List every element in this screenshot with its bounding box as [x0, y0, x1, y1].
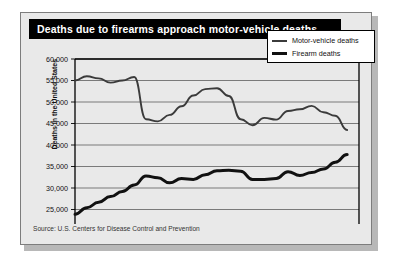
y-tick-label: 25,000: [46, 205, 68, 214]
y-tick-label: 55,000: [46, 76, 68, 85]
y-tick-label: 30,000: [46, 184, 68, 193]
legend-item-motor-vehicle: Motor-vehicle deaths: [272, 34, 370, 47]
y-tick-label: 60,000: [46, 55, 68, 64]
y-tick-label: 50,000: [46, 98, 68, 107]
source-note: Source: U.S. Centers for Disease Control…: [33, 225, 200, 232]
y-tick-labels-group: 60,00055,00050,00045,00040,00035,00030,0…: [46, 55, 68, 224]
legend-swatch-motor-vehicle: [272, 40, 287, 42]
gridlines-group: [75, 59, 359, 224]
chart-figure: Deaths due to firearms approach motor-ve…: [0, 0, 394, 263]
legend-label-firearm: Firearm deaths: [292, 49, 340, 58]
plot-area: Deaths in the United States 60,00055,000…: [21, 39, 373, 224]
y-tick-label: 35,000: [46, 162, 68, 171]
series-line-motor-vehicle: [75, 76, 347, 130]
legend-swatch-firearm: [272, 52, 287, 55]
legend-label-motor-vehicle: Motor-vehicle deaths: [292, 36, 359, 45]
y-tick-label: 40,000: [46, 141, 68, 150]
chart-svg: 60,00055,00050,00045,00040,00035,00030,0…: [21, 39, 373, 224]
chart-card: Deaths due to firearms approach motor-ve…: [20, 12, 372, 245]
series-line-firearm: [75, 154, 347, 214]
y-tick-label: 45,000: [46, 119, 68, 128]
axis-frame: [75, 59, 359, 224]
legend-item-firearm: Firearm deaths: [272, 47, 370, 60]
chart-legend: Motor-vehicle deaths Firearm deaths: [267, 30, 375, 63]
